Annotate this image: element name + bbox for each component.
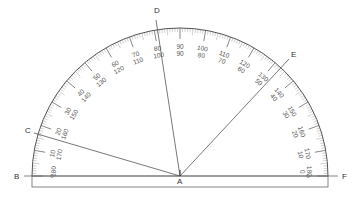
tick-mark <box>104 49 106 52</box>
tick-mark <box>320 140 324 141</box>
tick-mark <box>285 75 288 78</box>
tick-mark <box>159 29 160 33</box>
tick-mark <box>45 116 49 118</box>
tick-mark <box>77 70 80 73</box>
tick-mark <box>261 55 265 61</box>
tick-mark <box>115 43 117 47</box>
tick-mark <box>269 59 271 62</box>
tick-mark <box>102 50 104 53</box>
tick-mark <box>40 128 44 129</box>
tick-mark <box>227 36 228 40</box>
tick-mark <box>232 38 233 42</box>
tick-mark <box>85 63 92 71</box>
tick-mark <box>276 66 279 69</box>
tick-mark <box>318 135 322 136</box>
tick-mark <box>87 61 90 64</box>
tick-mark <box>54 98 57 100</box>
tick-mark <box>70 77 73 80</box>
tick-mark <box>296 91 302 95</box>
tick-mark <box>203 30 204 34</box>
tick-mark <box>36 143 40 144</box>
tick-mark <box>316 128 320 129</box>
tick-mark <box>49 107 53 109</box>
tick-mark <box>36 140 40 141</box>
tick-mark <box>127 38 128 42</box>
tick-mark <box>63 85 66 87</box>
tick-mark <box>222 34 223 38</box>
tick-mark <box>239 41 241 45</box>
tick-mark <box>313 118 317 120</box>
tick-mark <box>72 75 75 78</box>
tick-mark <box>268 63 275 71</box>
ray-AE <box>180 59 289 176</box>
tick-mark <box>265 56 267 59</box>
tick-mark <box>292 83 295 86</box>
tick-mark <box>48 109 52 111</box>
tick-mark <box>93 56 95 59</box>
inner-scale-label: 10 <box>297 151 305 160</box>
tick-mark <box>91 58 93 61</box>
tick-mark <box>302 98 305 100</box>
tick-mark <box>315 150 326 152</box>
tick-mark <box>285 81 293 88</box>
point-label-B: B <box>14 173 19 181</box>
tick-mark <box>320 163 327 164</box>
tick-mark <box>137 34 138 38</box>
tick-mark <box>57 93 60 95</box>
tick-mark <box>67 81 75 88</box>
tick-mark <box>287 77 290 80</box>
tick-mark <box>81 66 84 69</box>
tick-mark <box>301 95 304 97</box>
tick-mark <box>38 133 42 134</box>
tick-mark <box>35 145 39 146</box>
tick-mark <box>47 111 51 113</box>
tick-mark <box>74 73 77 76</box>
tick-mark <box>125 39 126 43</box>
tick-mark <box>65 83 68 86</box>
outer-scale-label: 90 <box>176 43 184 50</box>
tick-mark <box>37 138 44 140</box>
protractor-svg: 1017020160301504014050130601207011080100… <box>0 0 364 198</box>
tick-mark <box>34 150 45 152</box>
tick-mark <box>296 89 299 91</box>
inner-scale-label: 90 <box>176 50 184 57</box>
tick-mark <box>303 100 306 102</box>
tick-mark <box>240 42 243 48</box>
tick-mark <box>113 44 115 48</box>
inner-scale-label: 80 <box>197 51 206 59</box>
tick-mark <box>35 148 39 149</box>
point-label-D: D <box>154 7 160 15</box>
tick-mark <box>249 48 255 58</box>
tick-mark <box>200 29 201 33</box>
tick-mark <box>280 70 283 73</box>
tick-mark <box>39 130 43 131</box>
tick-mark <box>307 107 311 109</box>
protractor-scale-labels: 1017020160301504014050130601207011080100… <box>48 43 313 178</box>
tick-mark <box>309 111 313 113</box>
tick-mark <box>210 31 211 35</box>
tick-mark <box>308 113 314 116</box>
tick-mark <box>46 113 52 116</box>
tick-mark <box>147 32 148 36</box>
tick-mark <box>317 130 321 131</box>
tick-mark <box>99 52 101 55</box>
tick-mark <box>224 35 225 39</box>
tick-mark <box>52 102 62 108</box>
tick-mark <box>83 64 86 67</box>
tick-mark <box>312 116 316 118</box>
tick-mark <box>79 68 82 71</box>
tick-mark <box>318 133 322 134</box>
tick-mark <box>33 163 40 164</box>
tick-mark <box>258 52 260 55</box>
tick-mark <box>167 29 168 36</box>
inner-scale-label: 100 <box>153 51 165 60</box>
tick-mark <box>60 89 63 91</box>
tick-mark <box>323 155 327 156</box>
tick-mark <box>204 30 206 41</box>
tick-mark <box>139 34 140 38</box>
point-label-F: F <box>342 173 347 181</box>
protractor-diagram: 1017020160301504014050130601207011080100… <box>0 0 364 198</box>
tick-mark <box>132 36 133 40</box>
inner-scale-label: 20 <box>291 129 300 139</box>
tick-mark <box>271 61 274 64</box>
